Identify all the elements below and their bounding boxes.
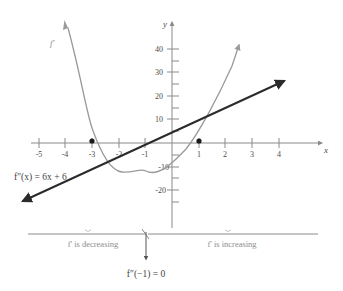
sign-chart-group: f' is decreasing f' is increasing f″(−1)…: [28, 229, 318, 280]
x-tick-label: -4: [62, 150, 69, 159]
sign-chart-right-label: f' is increasing: [207, 239, 257, 249]
x-tick-label: -3: [89, 150, 96, 159]
fprime-curve-label: f': [50, 38, 56, 48]
x-tick-label: -5: [36, 150, 43, 159]
sign-chart-left-label: f' is decreasing: [68, 239, 119, 249]
fprime-curve-arrow-left: [63, 20, 68, 30]
x-tick-label: 4: [277, 150, 281, 159]
marked-point-root-1: [196, 138, 201, 143]
marked-point-root-minus3: [89, 138, 94, 143]
sign-chart-left-brace: [85, 230, 91, 232]
sign-chart-right-brace: [225, 230, 231, 232]
y-tick-label: -20: [155, 186, 166, 195]
y-tick-label: 30: [155, 68, 163, 77]
graph-svg: -5 -4 -3 -2 -1 1 2 3 4 40 30 20 10 -10 -…: [0, 0, 343, 291]
x-tick-label: 2: [223, 150, 227, 159]
axes-group: -5 -4 -3 -2 -1 1 2 3 4 40 30 20 10 -10 -…: [31, 19, 328, 228]
x-tick-label: 1: [197, 150, 201, 159]
x-tick-label: -1: [142, 150, 149, 159]
y-tick-label: 10: [155, 115, 163, 124]
y-tick-label: 40: [155, 45, 163, 54]
fdoubleprime-equation-label: f″(x) = 6x + 6: [14, 172, 67, 183]
calculus-figure: -5 -4 -3 -2 -1 1 2 3 4 40 30 20 10 -10 -…: [0, 0, 343, 291]
y-axis-label: y: [162, 19, 167, 29]
x-axis-label: x: [323, 145, 328, 155]
x-tick-label: 3: [250, 150, 254, 159]
y-tick-label: 20: [155, 92, 163, 101]
fdoubleprime-line: [23, 81, 284, 201]
y-axis-ticks: [167, 49, 179, 202]
sign-chart-point-label: f″(−1) = 0: [127, 269, 166, 280]
